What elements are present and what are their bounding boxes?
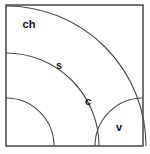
region-label-s: s — [56, 59, 62, 71]
region-label-ch: ch — [23, 18, 36, 30]
region-label-c: c — [85, 95, 91, 107]
region-label-v: v — [116, 121, 123, 133]
diagram-canvas: ch s c v — [0, 0, 150, 154]
nested-quarter-circle-diagram: ch s c v — [0, 0, 150, 154]
